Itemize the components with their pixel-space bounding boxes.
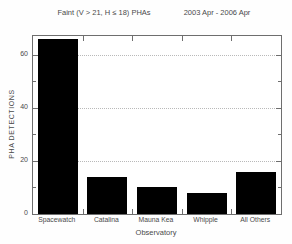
y-tick bbox=[278, 187, 281, 188]
x-boundary-tick bbox=[231, 209, 232, 214]
x-category-label: Catalina bbox=[94, 216, 119, 223]
x-category-label: Spacewatch bbox=[38, 216, 75, 223]
bar-whipple bbox=[187, 193, 227, 214]
bar-catalina bbox=[87, 177, 127, 214]
chart-date-range: 2003 Apr - 2006 Apr bbox=[184, 8, 251, 17]
y-tick bbox=[276, 108, 281, 109]
x-boundary-tick bbox=[182, 209, 183, 214]
x-category-label: Whipple bbox=[193, 216, 218, 223]
y-tick-label: 0 bbox=[0, 209, 28, 216]
x-category-label: Mauna Kea bbox=[139, 216, 174, 223]
chart-title: Faint (V > 21, H ≤ 18) PHAs bbox=[57, 8, 150, 17]
x-boundary-tick bbox=[83, 209, 84, 214]
x-boundary-tick bbox=[231, 36, 232, 41]
bar-spacewatch bbox=[38, 39, 78, 214]
x-boundary-tick bbox=[132, 36, 133, 41]
x-boundary-tick bbox=[182, 36, 183, 41]
y-tick-label: 20 bbox=[0, 156, 28, 163]
x-boundary-tick bbox=[132, 209, 133, 214]
x-axis-label: Observatory bbox=[136, 228, 177, 237]
bar-all-others bbox=[236, 172, 276, 215]
y-axis-label: PHA DETECTIONS bbox=[8, 89, 15, 158]
bar-mauna-kea bbox=[137, 187, 177, 214]
plot-area bbox=[32, 35, 282, 215]
chart-figure: Faint (V > 21, H ≤ 18) PHAs 2003 Apr - 2… bbox=[0, 0, 292, 244]
y-tick-label: 40 bbox=[0, 103, 28, 110]
y-tick bbox=[276, 55, 281, 56]
y-tick-label: 60 bbox=[0, 50, 28, 57]
x-category-label: All Others bbox=[240, 216, 270, 223]
x-boundary-tick bbox=[83, 36, 84, 41]
y-tick bbox=[33, 134, 36, 135]
y-tick bbox=[276, 161, 281, 162]
y-tick bbox=[33, 187, 36, 188]
y-tick bbox=[278, 134, 281, 135]
y-tick bbox=[33, 81, 36, 82]
y-tick bbox=[278, 81, 281, 82]
